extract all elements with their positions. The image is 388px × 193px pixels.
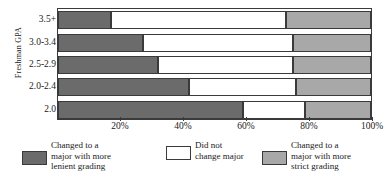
bar-row bbox=[58, 56, 371, 74]
plot-area-wrapper: Freshman GPA 3.5+3.0-3.42.5-2.92.0-2.42.… bbox=[0, 0, 388, 128]
bar-segment-nochange bbox=[243, 101, 306, 119]
bar-row bbox=[58, 101, 371, 119]
y-axis-category-labels: 3.5+3.0-3.42.5-2.92.0-2.42.0 bbox=[14, 8, 56, 120]
bar-segment-nochange bbox=[143, 34, 293, 52]
x-axis-tick-label: 20% bbox=[111, 121, 128, 131]
legend-swatch-lenient-icon bbox=[22, 151, 47, 165]
x-axis-tick-label: 60% bbox=[237, 121, 254, 131]
bar-row bbox=[58, 34, 371, 52]
bar-segment-lenient bbox=[58, 56, 158, 74]
y-axis-tick-label: 2.0 bbox=[44, 103, 56, 115]
y-axis-tick-label: 3.5+ bbox=[39, 13, 56, 25]
legend-item-strict: Changed to a major with more strict grad… bbox=[262, 140, 351, 172]
bar-row bbox=[58, 11, 371, 29]
legend-swatch-strict-icon bbox=[262, 151, 287, 165]
x-axis-tick-label: 40% bbox=[174, 121, 191, 131]
x-axis-tick-label: 80% bbox=[300, 121, 317, 131]
bar-segment-strict bbox=[293, 56, 371, 74]
bar-segment-strict bbox=[293, 34, 371, 52]
bar-segment-lenient bbox=[58, 78, 189, 96]
bar-segment-lenient bbox=[58, 101, 243, 119]
plot-area bbox=[57, 8, 372, 120]
y-axis-tick-label: 2.5-2.9 bbox=[29, 58, 56, 70]
stacked-bar-chart: Freshman GPA 3.5+3.0-3.42.5-2.92.0-2.42.… bbox=[0, 0, 388, 193]
chart-legend: Changed to a major with more lenient gra… bbox=[0, 140, 388, 193]
legend-item-lenient: Changed to a major with more lenient gra… bbox=[22, 140, 111, 172]
bar-segment-strict bbox=[305, 101, 371, 119]
legend-swatch-no-change-icon bbox=[166, 146, 191, 160]
bar-row bbox=[58, 78, 371, 96]
legend-item-no-change: Did not change major bbox=[166, 140, 244, 161]
bar-segment-lenient bbox=[58, 34, 143, 52]
legend-label-lenient: Changed to a major with more lenient gra… bbox=[51, 140, 111, 172]
bar-segment-nochange bbox=[111, 11, 286, 29]
legend-label-no-change: Did not change major bbox=[195, 140, 244, 161]
x-axis-tick-labels: 20%40%60%80%100% bbox=[57, 121, 372, 135]
y-axis-tick-label: 2.0-2.4 bbox=[29, 80, 56, 92]
y-axis-tick-label: 3.0-3.4 bbox=[29, 36, 56, 48]
bar-segment-nochange bbox=[189, 78, 295, 96]
bar-segment-strict bbox=[286, 11, 371, 29]
x-axis-tick-label: 100% bbox=[361, 121, 383, 131]
legend-label-strict: Changed to a major with more strict grad… bbox=[291, 140, 351, 172]
bar-segment-nochange bbox=[158, 56, 293, 74]
bar-segment-strict bbox=[296, 78, 371, 96]
bar-segment-lenient bbox=[58, 11, 111, 29]
